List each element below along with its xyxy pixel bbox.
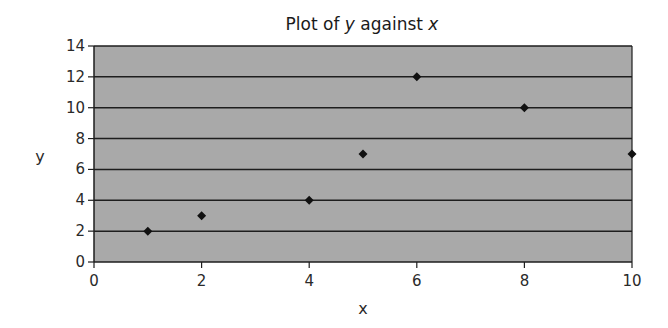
chart-title: Plot of y against x xyxy=(286,14,440,34)
y-tick-label: 8 xyxy=(75,130,85,148)
y-tick-label: 12 xyxy=(66,68,85,86)
y-tick-label: 6 xyxy=(75,160,85,178)
y-tick-label: 14 xyxy=(66,37,85,55)
x-tick-label: 2 xyxy=(197,272,207,290)
y-tick-label: 10 xyxy=(66,99,85,117)
x-tick-label: 0 xyxy=(89,272,99,290)
y-tick-label: 4 xyxy=(75,191,85,209)
y-tick-label: 0 xyxy=(75,253,85,271)
x-tick-label: 4 xyxy=(304,272,314,290)
scatter-chart: Plot of y against x 02468101214 0246810 … xyxy=(0,0,668,328)
y-axis-label: y xyxy=(35,147,44,166)
x-tick-label: 10 xyxy=(622,272,641,290)
x-tick-label: 6 xyxy=(412,272,422,290)
x-tick-label: 8 xyxy=(520,272,530,290)
x-axis-ticks: 0246810 xyxy=(89,262,641,290)
x-axis-label: x xyxy=(358,299,367,318)
y-axis-ticks: 02468101214 xyxy=(66,37,94,271)
y-tick-label: 2 xyxy=(75,222,85,240)
